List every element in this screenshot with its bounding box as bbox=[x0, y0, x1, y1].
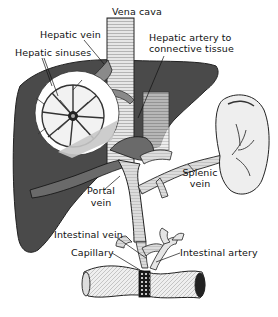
label-hepatic-artery-line1: Hepatic artery to bbox=[149, 32, 232, 43]
label-portal-vein-line1: Portal bbox=[84, 185, 118, 196]
spleen bbox=[216, 95, 269, 194]
label-portal-vein-line2: vein bbox=[84, 197, 118, 208]
label-hepatic-artery-line2: connective tissue bbox=[149, 43, 234, 54]
label-capillary: Capillary bbox=[71, 247, 114, 258]
label-hepatic-vein: Hepatic vein bbox=[40, 29, 101, 40]
label-intestinal-vein: Intestinal vein bbox=[54, 229, 123, 240]
liver-circulation-diagram: Vena cava Hepatic vein Hepatic sinuses H… bbox=[0, 0, 278, 317]
label-vena-cava: Vena cava bbox=[112, 6, 162, 17]
label-hepatic-sinuses: Hepatic sinuses bbox=[15, 47, 91, 58]
label-splenic-vein-line2: vein bbox=[180, 178, 220, 189]
capillary-network bbox=[139, 271, 150, 297]
figure-caption-truncated bbox=[6, 306, 274, 317]
label-intestinal-artery: Intestinal artery bbox=[180, 247, 258, 258]
label-splenic-vein-line1: Splenic bbox=[180, 167, 220, 178]
